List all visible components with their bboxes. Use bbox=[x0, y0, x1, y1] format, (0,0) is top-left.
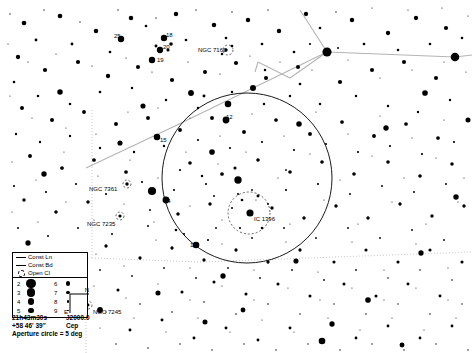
star bbox=[99, 327, 100, 328]
star bbox=[136, 65, 140, 69]
star bbox=[125, 297, 126, 298]
star bbox=[99, 269, 101, 271]
star bbox=[413, 191, 415, 193]
star bbox=[234, 61, 238, 65]
star bbox=[256, 158, 260, 162]
compass-north-label: N bbox=[85, 287, 89, 293]
star bbox=[123, 203, 124, 204]
star bbox=[435, 343, 436, 344]
constellation-line bbox=[290, 52, 327, 78]
legend-row-const-boundary: Const Bd bbox=[13, 261, 87, 269]
star bbox=[111, 233, 113, 235]
star bbox=[37, 95, 40, 98]
star bbox=[171, 311, 173, 313]
magnitude-value: 3 bbox=[17, 290, 24, 296]
star bbox=[131, 275, 133, 277]
star bbox=[319, 27, 322, 30]
constellation-line bbox=[327, 52, 455, 57]
star bbox=[131, 87, 133, 89]
star bbox=[210, 116, 214, 120]
star bbox=[82, 110, 86, 114]
star bbox=[411, 69, 412, 70]
star bbox=[263, 103, 265, 105]
magnitude-value: 2 bbox=[17, 281, 24, 287]
star bbox=[175, 229, 178, 232]
star bbox=[379, 77, 380, 78]
star bbox=[157, 107, 158, 108]
aperture-circle bbox=[162, 93, 332, 263]
star bbox=[436, 136, 440, 140]
star bbox=[202, 319, 207, 324]
star bbox=[208, 202, 211, 205]
star bbox=[189, 117, 190, 118]
star bbox=[219, 73, 220, 74]
star bbox=[285, 169, 287, 171]
star bbox=[342, 282, 345, 285]
star bbox=[219, 135, 220, 136]
star bbox=[140, 103, 145, 108]
footer-line-dec: +58 46' 39" Cep bbox=[12, 322, 90, 330]
star bbox=[365, 313, 367, 315]
object-label: IC 1396 bbox=[254, 216, 275, 223]
magnitude-value: 8 bbox=[54, 299, 61, 305]
aperture-circle-outline bbox=[162, 93, 332, 263]
star bbox=[407, 283, 410, 286]
star bbox=[293, 51, 296, 54]
star bbox=[58, 14, 63, 19]
star bbox=[231, 207, 233, 209]
star bbox=[221, 243, 222, 244]
star bbox=[207, 239, 209, 241]
star bbox=[443, 119, 444, 120]
star bbox=[221, 219, 222, 220]
star bbox=[65, 127, 66, 128]
star bbox=[173, 189, 175, 191]
star bbox=[293, 258, 298, 263]
star bbox=[299, 83, 302, 86]
magnitude-dot-icon bbox=[24, 279, 38, 288]
star bbox=[293, 331, 294, 332]
star bbox=[251, 237, 253, 239]
star bbox=[11, 161, 12, 162]
star bbox=[302, 216, 305, 219]
star bbox=[93, 285, 94, 286]
star bbox=[197, 139, 199, 141]
star bbox=[404, 122, 408, 126]
magnitude-value: 9 bbox=[54, 308, 61, 314]
star bbox=[423, 329, 424, 330]
star bbox=[205, 183, 207, 185]
footer-aperture-note: Aperture circle = 5 deg bbox=[12, 330, 90, 338]
star bbox=[389, 145, 391, 147]
constellation-lines bbox=[86, 10, 472, 168]
star bbox=[188, 90, 194, 96]
star bbox=[114, 122, 118, 126]
star bbox=[317, 183, 319, 185]
star bbox=[7, 43, 8, 44]
star bbox=[291, 269, 293, 271]
star bbox=[357, 223, 358, 224]
star bbox=[203, 70, 207, 74]
star bbox=[387, 277, 389, 279]
star bbox=[366, 216, 369, 219]
star bbox=[460, 260, 463, 263]
star bbox=[234, 176, 241, 183]
star bbox=[235, 313, 237, 315]
star bbox=[176, 212, 180, 216]
star bbox=[231, 91, 233, 93]
star bbox=[229, 331, 230, 332]
star bbox=[179, 169, 181, 171]
star bbox=[307, 343, 308, 344]
star bbox=[146, 116, 150, 120]
star bbox=[253, 269, 254, 270]
star bbox=[443, 61, 444, 62]
star bbox=[309, 153, 310, 154]
star bbox=[139, 303, 141, 305]
magnitude-column-left: 2345 bbox=[13, 279, 50, 315]
star bbox=[257, 339, 260, 342]
star bbox=[467, 349, 468, 350]
magnitude-row: 2 bbox=[13, 279, 50, 288]
star bbox=[76, 60, 80, 64]
star bbox=[178, 128, 182, 132]
star bbox=[106, 74, 110, 78]
star bbox=[161, 319, 164, 322]
star bbox=[299, 313, 301, 315]
